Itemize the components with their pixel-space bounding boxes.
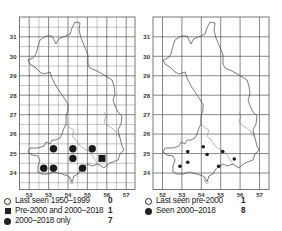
- y-tick-label: 25: [10, 151, 17, 157]
- legend-label: Pre-2000 and 2000–2018: [15, 206, 103, 216]
- y-tick-label: 25: [143, 151, 150, 157]
- filled-square-icon: [98, 155, 105, 162]
- left-map-records: [40, 145, 105, 172]
- legend-label: Seen 2000–2018: [156, 206, 216, 216]
- y-tick-label: 28: [10, 93, 17, 99]
- y-tick-label: 29: [143, 73, 150, 79]
- y-tick-label: 30: [143, 54, 150, 60]
- y-tick-label: 26: [10, 131, 17, 137]
- y-tick-label: 31: [10, 34, 17, 40]
- legend-row-recent-only: 2000–2018 only 7: [4, 216, 140, 226]
- filled-square-icon: [5, 208, 11, 214]
- legend-row-seen-recent: Seen 2000–2018 8: [145, 206, 281, 216]
- filled-circle-icon: [69, 145, 76, 152]
- y-tick-label: 24: [143, 170, 150, 176]
- legend-label: Last seen pre-2000: [156, 196, 223, 206]
- county-outline: [163, 22, 259, 182]
- right-map: 3130292827262524 525354555657: [141, 0, 282, 200]
- filled-circle-icon: [89, 145, 96, 152]
- filled-circle-icon: [221, 150, 225, 154]
- right-map-panel: 3130292827262524 525354555657 Last seen …: [141, 0, 282, 231]
- legend-count: 7: [108, 216, 112, 226]
- legend-count: 8: [241, 206, 245, 216]
- filled-circle-icon: [186, 161, 190, 165]
- right-map-records: [178, 145, 236, 168]
- left-map-panel: 3130292827262524 525354555657 Last seen …: [0, 0, 141, 231]
- legend-label: 2000–2018 only: [15, 216, 70, 226]
- right-y-axis-labels: 3130292827262524: [143, 34, 150, 176]
- legend-row-last-seen: Last seen 1950–1999 0: [4, 196, 140, 206]
- left-legend: Last seen 1950–1999 0 Pre-2000 and 2000–…: [4, 196, 140, 228]
- open-circle-icon: [4, 198, 11, 205]
- y-tick-label: 29: [10, 73, 17, 79]
- y-tick-label: 24: [10, 170, 17, 176]
- filled-circle-icon: [201, 145, 205, 149]
- y-tick-label: 27: [143, 112, 150, 118]
- filled-circle-icon: [4, 218, 11, 225]
- legend-count: 1: [108, 206, 112, 216]
- legend-row-pre-and-post: Pre-2000 and 2000–2018 1: [4, 206, 140, 216]
- legend-row-last-seen: Last seen pre-2000 1: [145, 196, 281, 206]
- legend-count: 0: [108, 196, 112, 206]
- filled-circle-icon: [178, 164, 182, 168]
- map-frame: [153, 17, 269, 190]
- left-map-grid: [20, 17, 136, 190]
- right-legend: Last seen pre-2000 1 Seen 2000–2018 8: [145, 196, 281, 218]
- filled-circle-icon: [232, 157, 236, 161]
- filled-circle-icon: [69, 155, 76, 162]
- right-map-grid: [153, 17, 269, 190]
- filled-circle-icon: [79, 164, 86, 171]
- filled-circle-icon: [186, 150, 190, 154]
- filled-circle-icon: [217, 164, 221, 168]
- y-tick-label: 28: [143, 93, 150, 99]
- legend-label: Last seen 1950–1999: [15, 196, 90, 206]
- y-tick-label: 30: [10, 54, 17, 60]
- filled-circle-icon: [50, 164, 57, 171]
- filled-circle-icon: [145, 208, 152, 215]
- map-frame: [20, 17, 136, 190]
- left-map: 3130292827262524 525354555657: [0, 0, 141, 200]
- filled-circle-icon: [40, 164, 47, 171]
- filled-circle-icon: [205, 153, 209, 157]
- y-tick-label: 26: [143, 131, 150, 137]
- legend-count: 1: [241, 196, 245, 206]
- filled-circle-icon: [50, 145, 57, 152]
- open-circle-icon: [145, 198, 152, 205]
- left-y-axis-labels: 3130292827262524: [10, 34, 17, 176]
- y-tick-label: 31: [143, 34, 150, 40]
- y-tick-label: 27: [10, 112, 17, 118]
